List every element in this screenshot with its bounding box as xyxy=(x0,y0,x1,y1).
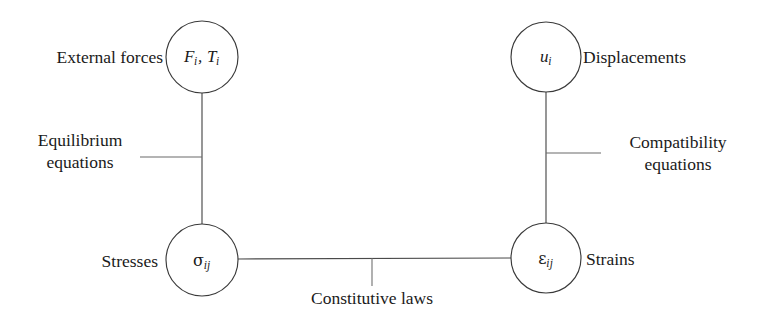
node-label-strains: Strains xyxy=(586,249,635,270)
node-symbol-strains: εij xyxy=(538,249,553,269)
edge-label-compatibility: Compatibility equations xyxy=(629,131,726,175)
edge-line-constitutive xyxy=(238,258,511,259)
edge-label-equilibrium-line2: equations xyxy=(38,151,123,173)
elasticity-tetrahedron-diagram: Fi, Ti ui σij εij External forces Displa… xyxy=(0,0,757,323)
symbol-F: Fi xyxy=(184,47,198,66)
symbol-epsilon-subscript: ij xyxy=(546,257,553,269)
node-symbol-external-forces: Fi, Ti xyxy=(184,47,220,67)
edge-label-equilibrium: Equilibrium equations xyxy=(38,129,123,173)
node-label-displacements: Displacements xyxy=(583,47,686,68)
edge-label-compatibility-line1: Compatibility xyxy=(629,131,726,153)
edge-label-equilibrium-line1: Equilibrium xyxy=(38,129,123,151)
symbol-u: ui xyxy=(540,47,552,66)
node-symbol-stresses: σij xyxy=(193,251,211,271)
node-label-external-forces: External forces xyxy=(57,47,163,68)
symbol-sigma: σ xyxy=(193,251,204,270)
symbol-separator: , xyxy=(198,47,207,66)
symbol-sigma-subscript: ij xyxy=(204,259,211,271)
node-label-stresses: Stresses xyxy=(102,251,158,272)
edge-label-constitutive-line1: Constitutive laws xyxy=(311,288,433,309)
symbol-T: Ti xyxy=(207,47,220,66)
node-symbol-displacements: ui xyxy=(540,47,552,67)
edge-label-constitutive: Constitutive laws xyxy=(311,288,433,309)
edge-label-compatibility-line2: equations xyxy=(629,153,726,175)
